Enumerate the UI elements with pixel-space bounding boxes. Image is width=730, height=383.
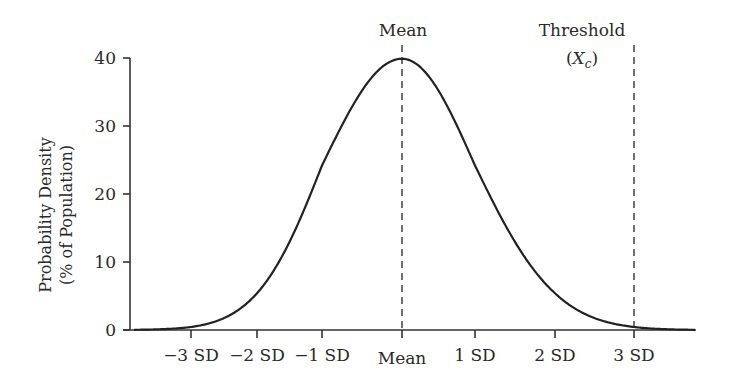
y-ticks: 010203040	[94, 48, 130, 340]
threshold-close-paren: )	[591, 48, 598, 68]
normal-distribution-chart: Probability Density (% of Population) 01…	[0, 0, 730, 383]
y-tick-label: 40	[94, 48, 116, 68]
threshold-annotation: Threshold	[539, 20, 626, 40]
threshold-x: X	[571, 48, 586, 68]
x-tick-label: −1 SD	[294, 345, 350, 365]
x-ticks: −3 SD−2 SD−1 SDMean1 SD2 SD3 SD	[163, 330, 655, 368]
y-axis-label-line1: Probability Density	[36, 137, 55, 292]
x-tick-label: −3 SD	[163, 345, 219, 365]
axes	[123, 58, 696, 330]
y-axis-label-line2: (% of Population)	[57, 145, 76, 285]
x-tick-label: 3 SD	[613, 345, 655, 365]
x-tick-label: 1 SD	[454, 345, 496, 365]
y-axis-label: Probability Density (% of Population)	[36, 137, 76, 292]
y-tick-label: 0	[105, 320, 116, 340]
x-tick-label: 2 SD	[534, 345, 576, 365]
y-tick-label: 30	[94, 116, 116, 136]
y-tick-label: 10	[94, 252, 116, 272]
threshold-open-paren: (	[566, 48, 573, 68]
normal-curve	[134, 59, 695, 330]
threshold-variable: (Xc)	[566, 48, 598, 71]
y-tick-label: 20	[94, 184, 116, 204]
mean-annotation: Mean	[379, 20, 428, 40]
x-tick-label: −2 SD	[229, 345, 285, 365]
x-tick-label: Mean	[378, 348, 427, 368]
